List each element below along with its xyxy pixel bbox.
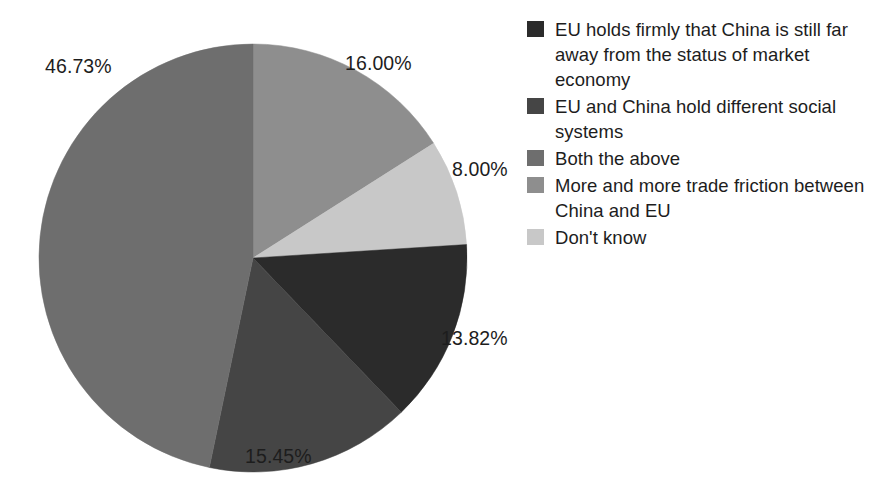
slice-value-label-eu-holds-firmly: 13.82% bbox=[441, 327, 508, 350]
legend-item-label: Don't know bbox=[555, 225, 646, 250]
legend-item-both-the-above: Both the above bbox=[527, 146, 887, 171]
slice-value-label-dont-know: 8.00% bbox=[452, 158, 508, 181]
legend-item-eu-holds-firmly-that-china-is-still-far-: EU holds firmly that China is still far … bbox=[527, 17, 887, 92]
legend-item-label: EU holds firmly that China is still far … bbox=[555, 17, 873, 92]
slice-value-label-different-social-systems: 15.45% bbox=[245, 445, 312, 468]
pie-slice-group bbox=[39, 44, 467, 472]
legend-item-label: EU and China hold different social syste… bbox=[555, 94, 873, 144]
legend-swatch-icon bbox=[527, 98, 544, 114]
legend-swatch-icon bbox=[527, 150, 544, 166]
legend-item-label: More and more trade friction between Chi… bbox=[555, 173, 873, 223]
legend-swatch-icon bbox=[527, 177, 544, 193]
slice-value-label-both-the-above: 46.73% bbox=[45, 55, 112, 78]
pie-svg bbox=[38, 43, 468, 473]
pie-plot-area: 16.00% 8.00% 13.82% 15.45% 46.73% bbox=[0, 0, 520, 493]
legend-swatch-icon bbox=[527, 21, 544, 37]
legend-item-don-t-know: Don't know bbox=[527, 225, 887, 250]
legend-item-more-and-more-trade-friction-between-chi: More and more trade friction between Chi… bbox=[527, 173, 887, 223]
legend-item-eu-and-china-hold-different-social-syste: EU and China hold different social syste… bbox=[527, 94, 887, 144]
legend-item-label: Both the above bbox=[555, 146, 680, 171]
chart-legend: EU holds firmly that China is still far … bbox=[527, 17, 887, 252]
slice-value-label-trade-friction: 16.00% bbox=[345, 52, 412, 75]
legend-swatch-icon bbox=[527, 229, 544, 245]
pie-chart-figure: 16.00% 8.00% 13.82% 15.45% 46.73% EU hol… bbox=[0, 0, 894, 493]
pie-slice-both-the-above bbox=[39, 44, 253, 468]
